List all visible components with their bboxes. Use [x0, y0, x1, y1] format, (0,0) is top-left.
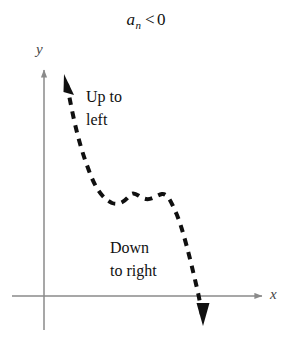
title-subscript: n: [135, 19, 141, 31]
y-axis-label: y: [36, 41, 43, 58]
title-relation: <: [145, 10, 155, 29]
annotation-up-to-left: Up to left: [86, 85, 122, 131]
annotation-down-to-right-line1: Down: [110, 236, 157, 259]
annotation-down-to-right: Down to right: [110, 236, 157, 282]
curve-arrowhead-down-right: [197, 303, 210, 326]
annotation-up-to-left-line2: left: [86, 108, 122, 131]
x-axis-label: x: [270, 286, 277, 303]
curve-arrowhead-up-left: [64, 74, 75, 95]
diagram-title: an<0: [0, 10, 292, 31]
title-coefficient: a: [126, 10, 135, 29]
annotation-down-to-right-line2: to right: [110, 259, 157, 282]
title-value: 0: [157, 10, 166, 29]
annotation-up-to-left-line1: Up to: [86, 85, 122, 108]
end-behavior-diagram: [0, 0, 292, 355]
